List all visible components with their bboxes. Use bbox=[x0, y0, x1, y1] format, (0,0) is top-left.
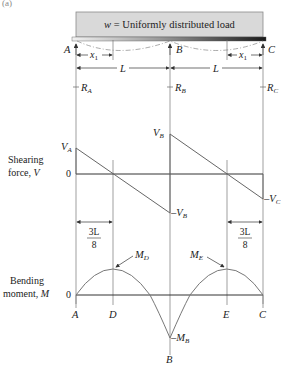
moment-diagram: Bending moment, M 0 MD ME –MB A D E C B bbox=[3, 249, 267, 365]
shear-diagram: Shearing force, V 0 VA VB –VB –VC bbox=[8, 127, 281, 220]
dimension-3l8-right: 3L 8 bbox=[228, 222, 262, 250]
continuous-beam-diagram: (a) w = Uniformly distributed load A B C… bbox=[0, 0, 293, 369]
svg-text:force, V: force, V bbox=[8, 167, 42, 178]
moment-zero-label: 0 bbox=[66, 289, 71, 300]
dimension-x1-right: x1 bbox=[228, 49, 262, 62]
point-label-d: D bbox=[108, 309, 117, 320]
svg-text:3L: 3L bbox=[240, 227, 251, 237]
moment-axis-label: Bending bbox=[10, 275, 44, 286]
svg-text:3L: 3L bbox=[89, 227, 100, 237]
reaction-rb: RB bbox=[174, 82, 186, 95]
svg-text:L: L bbox=[212, 63, 219, 74]
point-label-e: E bbox=[222, 309, 230, 320]
support-label-a: A bbox=[63, 44, 71, 55]
svg-text:8: 8 bbox=[243, 240, 248, 250]
label-neg-vc: –VC bbox=[263, 193, 281, 206]
figure-label: (a) bbox=[2, 0, 12, 8]
reaction-rc: RC bbox=[266, 82, 278, 95]
support-label-c: C bbox=[268, 44, 276, 55]
svg-text:L: L bbox=[119, 63, 126, 74]
reaction-ra: RA bbox=[80, 82, 92, 95]
dimension-x1-left: x1 bbox=[77, 49, 112, 62]
load-label: = Uniformly distributed load bbox=[111, 19, 235, 30]
shear-zero-label: 0 bbox=[66, 168, 71, 179]
label-va: VA bbox=[61, 141, 72, 154]
svg-text:8: 8 bbox=[92, 240, 97, 250]
point-label-c: C bbox=[259, 309, 267, 320]
svg-text:moment, M: moment, M bbox=[3, 288, 50, 299]
label-vb: VB bbox=[153, 127, 164, 140]
dimension-span-bc: L bbox=[171, 62, 262, 74]
moment-curve bbox=[76, 269, 263, 338]
load-variable: w bbox=[104, 19, 111, 30]
support-arrows bbox=[76, 44, 263, 55]
label-neg-mb: –MB bbox=[170, 332, 190, 345]
svg-text:w = Uniformly distributed load: w = Uniformly distributed load bbox=[104, 19, 236, 30]
point-label-a: A bbox=[71, 309, 79, 320]
distributed-load: w = Uniformly distributed load bbox=[76, 12, 263, 37]
dimension-3l8-left: 3L 8 bbox=[77, 222, 112, 250]
dimension-span-ab: L bbox=[77, 62, 169, 74]
shear-axis-label: Shearing bbox=[8, 154, 44, 165]
label-md: MD bbox=[134, 249, 149, 262]
support-label-b: B bbox=[176, 44, 183, 55]
label-neg-vb: –VB bbox=[170, 207, 188, 220]
point-label-b: B bbox=[166, 354, 173, 365]
beam bbox=[72, 37, 266, 41]
label-me: ME bbox=[189, 249, 204, 262]
